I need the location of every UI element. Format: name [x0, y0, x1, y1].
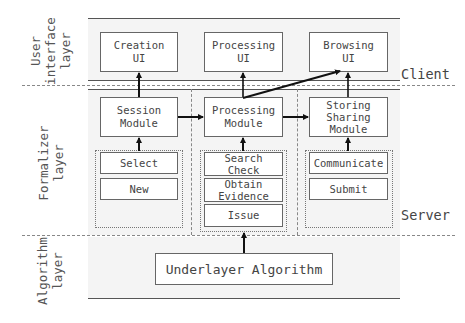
connection-arrows: [0, 0, 465, 323]
arrow-processing-to-browsing-ui: [243, 71, 340, 98]
